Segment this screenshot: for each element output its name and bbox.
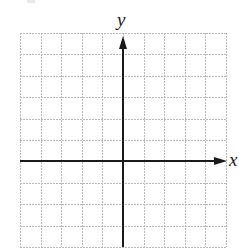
- axes: [20, 36, 227, 247]
- y-axis-label: y: [117, 10, 125, 29]
- grid: [0, 0, 239, 251]
- x-axis-label: x: [229, 150, 237, 169]
- x-axis-arrow-icon: [214, 157, 227, 165]
- y-axis-arrow-icon: [119, 36, 127, 49]
- coordinate-plane: y x: [0, 0, 239, 251]
